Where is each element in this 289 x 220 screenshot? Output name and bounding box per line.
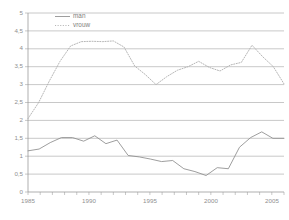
x-tick-label: 1995 (143, 197, 157, 204)
x-tick-labels: 1985 1990 1995 2000 2005 (21, 197, 279, 204)
y-tick-label: 0,5 (14, 170, 23, 177)
legend-label-vrouw: vrouw (73, 21, 90, 28)
series-line-vrouw (28, 41, 284, 119)
y-tick-label: 4,5 (14, 27, 23, 34)
y-tick-label: 1,5 (14, 134, 23, 141)
line-chart: 5 4,5 4 3,5 3 2,5 2 1,5 1 0,5 0 1985 199… (0, 0, 289, 212)
x-tick-label: 1985 (21, 197, 35, 204)
y-tick-label: 2,5 (14, 98, 23, 105)
y-tick-label: 3,5 (14, 62, 23, 69)
caption-text (0, 212, 289, 220)
legend-label-man: man (73, 12, 86, 19)
y-tick-label: 5 (20, 9, 24, 16)
y-tick-label: 2 (20, 116, 24, 123)
y-tick-labels: 5 4,5 4 3,5 3 2,5 2 1,5 1 0,5 0 (14, 9, 23, 195)
x-tick-label: 1990 (82, 197, 96, 204)
y-tick-label: 1 (20, 152, 24, 159)
y-tickmarks (25, 13, 28, 192)
y-tick-label: 0 (20, 188, 24, 195)
chart-legend: man vrouw (55, 12, 90, 28)
x-tickmarks (28, 192, 284, 195)
chart-container: 5 4,5 4 3,5 3 2,5 2 1,5 1 0,5 0 1985 199… (0, 0, 289, 220)
y-tick-label: 4 (20, 44, 24, 51)
x-tick-label: 2000 (204, 197, 218, 204)
x-tick-label: 2005 (265, 197, 279, 204)
y-tick-label: 3 (20, 80, 24, 87)
gridlines (28, 13, 284, 174)
